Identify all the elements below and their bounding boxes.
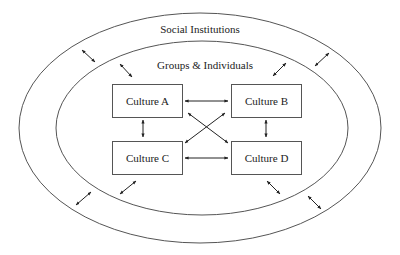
culture-d-box: Culture D <box>231 141 302 175</box>
culture-b-label: Culture B <box>245 95 288 107</box>
culture-b-box: Culture B <box>231 84 302 118</box>
outer-ring-label: Social Institutions <box>160 23 240 35</box>
double-arrow-icon <box>120 181 136 194</box>
inner-ring-label: Groups & Individuals <box>157 59 253 71</box>
double-arrow-icon <box>267 181 280 194</box>
culture-d-label: Culture D <box>245 152 289 164</box>
double-arrow-icon <box>120 64 132 77</box>
double-arrow-icon <box>315 53 329 66</box>
connector-b-c <box>185 113 225 143</box>
culture-c-box: Culture C <box>112 141 183 175</box>
culture-c-label: Culture C <box>126 152 169 164</box>
double-arrow-icon <box>76 192 91 205</box>
culture-a-label: Culture A <box>126 95 169 107</box>
double-arrow-icon <box>273 63 286 76</box>
double-arrow-icon <box>308 196 321 209</box>
diagram-canvas <box>0 0 400 255</box>
culture-a-box: Culture A <box>112 84 183 118</box>
double-arrow-icon <box>82 50 95 62</box>
connector-a-d <box>188 113 228 143</box>
outer-ring-social-institutions <box>19 13 381 243</box>
